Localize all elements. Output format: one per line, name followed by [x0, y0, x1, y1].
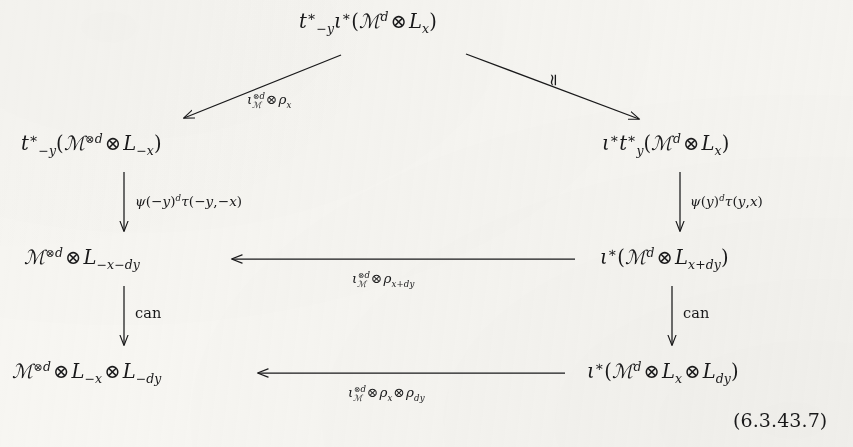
upper-left-node: t∗−y(ℳ⊗d⊗L−x): [21, 132, 162, 155]
arrow-label-diag-right: ≃: [543, 73, 563, 87]
upper-right-node: ι∗t∗y(ℳd⊗Lx): [602, 132, 729, 155]
arrow-label-left-vertical-2: can: [135, 305, 161, 321]
arrow-label-right-vertical-1: ψ(y)dτ(y,x): [690, 193, 763, 209]
arrow-label-diag-left: ιℳ⊗d⊗ρx: [247, 91, 292, 107]
arrow-diag-left: [184, 55, 341, 118]
diagram-page: t∗−yι∗(ℳd⊗Lx) t∗−y(ℳ⊗d⊗L−x) ι∗t∗y(ℳd⊗Lx)…: [0, 0, 853, 447]
top-node: t∗−yι∗(ℳd⊗Lx): [299, 10, 437, 33]
bottom-left-node: ℳ⊗d⊗L−x⊗L−dy: [12, 360, 162, 383]
equation-number: (6.3.43.7): [733, 409, 827, 431]
middle-right-node: ι∗(ℳd⊗Lx+dy): [600, 246, 729, 269]
arrow-label-left-vertical-1: ψ(−y)dτ(−y,−x): [135, 193, 242, 209]
arrow-label-middle-horizontal: ιℳ⊗d⊗ρx+dy: [352, 270, 414, 286]
arrow-label-bottom-horizontal: ιℳ⊗d⊗ρx⊗ρdy: [348, 384, 425, 400]
arrow-label-right-vertical-2: can: [683, 305, 709, 321]
bottom-right-node: ι∗(ℳd⊗Lx⊗Ldy): [587, 360, 739, 383]
middle-left-node: ℳ⊗d⊗L−x−dy: [24, 246, 140, 269]
